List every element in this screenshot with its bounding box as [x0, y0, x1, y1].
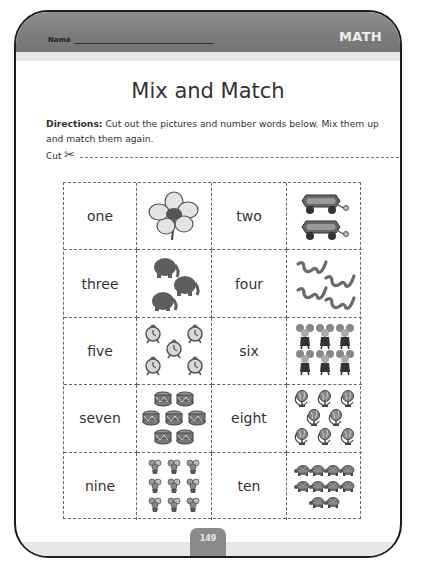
header-divider-strip [16, 52, 400, 61]
word-card[interactable]: six [212, 318, 287, 385]
word-card[interactable]: nine [64, 453, 137, 520]
directions-label: Directions: [46, 118, 103, 129]
word-card[interactable]: one [64, 183, 137, 250]
globe-icon [294, 389, 356, 447]
picture-card[interactable] [287, 183, 362, 250]
header-band: Name MATH [16, 12, 400, 52]
wagon-icon [298, 189, 352, 243]
mouse-icon [295, 324, 355, 378]
dashed-cut-line [80, 157, 402, 158]
word-card[interactable]: ten [212, 453, 287, 520]
worksheet-page: Name MATH Mix and Match Directions: Cut … [14, 10, 402, 558]
picture-card[interactable] [287, 318, 362, 385]
number-word: three [81, 276, 118, 292]
flower-pot-icon [146, 458, 202, 514]
number-word: five [87, 343, 113, 359]
number-word: two [236, 208, 262, 224]
picture-card[interactable] [137, 385, 212, 452]
picture-card[interactable] [137, 250, 212, 317]
match-grid: one two [63, 182, 361, 519]
picture-card[interactable] [287, 250, 362, 317]
word-card[interactable]: five [64, 318, 137, 385]
page-number-tab: 149 [190, 528, 226, 556]
cut-label: Cut [46, 151, 62, 161]
snake-icon [294, 256, 356, 312]
scissors-icon: ✂ [64, 148, 75, 162]
picture-card[interactable] [137, 318, 212, 385]
word-card[interactable]: four [212, 250, 287, 317]
name-label: Name [48, 36, 71, 44]
word-card[interactable]: seven [64, 385, 137, 452]
number-word: eight [231, 410, 267, 426]
directions: Directions: Cut out the pictures and num… [46, 116, 386, 146]
elephant-icon [147, 255, 201, 313]
number-word: one [87, 208, 113, 224]
picture-card[interactable] [287, 385, 362, 452]
alarm-clock-icon [143, 323, 205, 379]
turtle-icon [294, 461, 356, 511]
word-card[interactable]: two [212, 183, 287, 250]
number-word: seven [79, 410, 121, 426]
drum-icon [141, 390, 207, 446]
cut-line-row: Cut ✂ [46, 151, 402, 163]
picture-card[interactable] [137, 453, 212, 520]
subject-label: MATH [339, 29, 382, 44]
word-card[interactable]: three [64, 250, 137, 317]
picture-card[interactable] [287, 453, 362, 520]
page-title: Mix and Match [16, 79, 400, 103]
page-number: 149 [190, 534, 226, 543]
number-word: ten [238, 478, 261, 494]
flower-icon [148, 190, 200, 242]
number-word: four [235, 276, 263, 292]
word-card[interactable]: eight [212, 385, 287, 452]
name-field-line[interactable] [74, 43, 214, 44]
picture-card[interactable] [137, 183, 212, 250]
number-word: six [239, 343, 258, 359]
number-word: nine [85, 478, 115, 494]
